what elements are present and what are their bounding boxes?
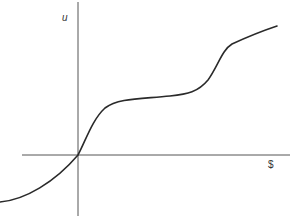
- y-axis-label: u: [62, 12, 68, 23]
- utility-chart: u $: [0, 0, 294, 220]
- x-axis-label: $: [268, 159, 274, 170]
- utility-curve: [0, 26, 277, 202]
